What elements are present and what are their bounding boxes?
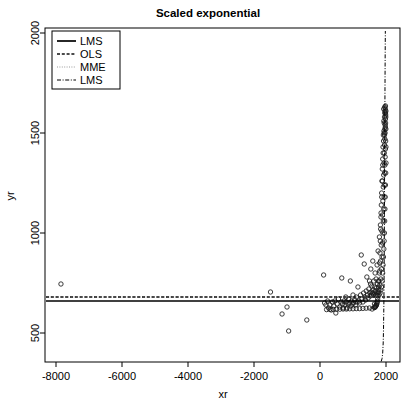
y-tick-label: 1000 [29,221,41,245]
legend-label: OLS [80,48,102,60]
scatter-plot: Scaled exponential xr yr -8000-6000-4000… [0,0,416,406]
y-tick-label: 500 [29,324,41,342]
x-axis-label: xr [218,388,228,400]
legend-label: MME [80,61,106,73]
y-axis-label: yr [4,191,16,201]
y-tick-label: 1500 [29,121,41,145]
legend-label: LMS [80,35,103,47]
chart-figure: Scaled exponential xr yr -8000-6000-4000… [0,0,416,406]
x-tick-label: 0 [317,370,323,382]
y-tick-label: 2000 [29,21,41,45]
legend: LMSOLSMMELMS [52,31,120,89]
x-tick-label: -4000 [174,370,202,382]
legend-label: LMS [80,74,103,86]
x-tick-label: 2000 [374,370,398,382]
page-title: Scaled exponential [156,7,260,19]
x-tick-label: -6000 [108,370,136,382]
x-tick-label: -2000 [240,370,268,382]
x-tick-label: -8000 [42,370,70,382]
